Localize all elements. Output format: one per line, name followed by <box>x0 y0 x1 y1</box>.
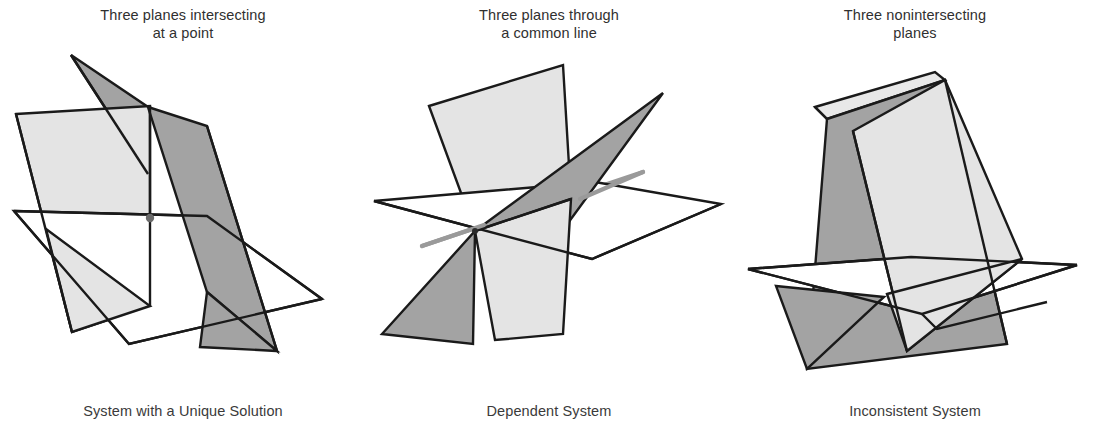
panel-dependent-system: Three planes through a common line <box>366 0 732 436</box>
three-planes-figure: Three planes intersecting at a point <box>0 0 1098 436</box>
panel-3-caption: Inconsistent System <box>732 402 1098 420</box>
panel-inconsistent-system: Three nonintersecting planes <box>732 0 1098 436</box>
panel-unique-solution: Three planes intersecting at a point <box>0 0 366 436</box>
panel-1-diagram <box>0 44 366 396</box>
panel-2-title: Three planes through a common line <box>366 6 732 42</box>
p2-line-pierce-point <box>472 228 478 234</box>
p2-dark-plane-lower <box>382 231 475 344</box>
p1-intersection-point <box>146 214 154 222</box>
panel-1-caption: System with a Unique Solution <box>0 402 366 420</box>
panel-3-title: Three nonintersecting planes <box>732 6 1098 42</box>
panel-1-title: Three planes intersecting at a point <box>0 6 366 42</box>
panel-2-caption: Dependent System <box>366 402 732 420</box>
panel-2-diagram <box>366 44 732 396</box>
panel-3-diagram <box>732 44 1098 396</box>
